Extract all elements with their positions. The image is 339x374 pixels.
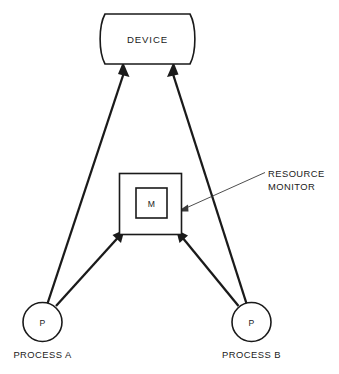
connector-process-b-to-monitor — [176, 230, 239, 307]
annotation-line-1: RESOURCE — [268, 168, 325, 179]
process-a-label: PROCESS A — [13, 349, 72, 360]
diagram-canvas: DEVICE M P PROCESS A P PROCESS B RESOURC… — [0, 0, 339, 374]
process-b-symbol: P — [249, 318, 255, 328]
device-label: DEVICE — [127, 34, 168, 45]
node-resource-monitor[interactable]: M — [120, 174, 182, 235]
annotation-resource-monitor: RESOURCE MONITOR — [268, 168, 325, 192]
connector-line — [48, 73, 125, 304]
connector-process-a-to-device — [48, 62, 130, 304]
leader-line — [186, 173, 265, 209]
connector-process-a-to-monitor — [56, 230, 125, 307]
monitor-inner-label: M — [148, 199, 155, 209]
connector-line — [182, 237, 239, 306]
resource-monitor-diagram: DEVICE M P PROCESS A P PROCESS B RESOURC… — [0, 0, 339, 374]
node-device[interactable]: DEVICE — [100, 14, 195, 64]
process-a-symbol: P — [40, 318, 46, 328]
annotation-line-2: MONITOR — [268, 181, 315, 192]
leader-resource-monitor-annotation — [178, 173, 266, 212]
process-b-label: PROCESS B — [222, 349, 281, 360]
node-process-b[interactable]: P PROCESS B — [222, 303, 281, 360]
node-process-a[interactable]: P PROCESS A — [13, 303, 72, 360]
